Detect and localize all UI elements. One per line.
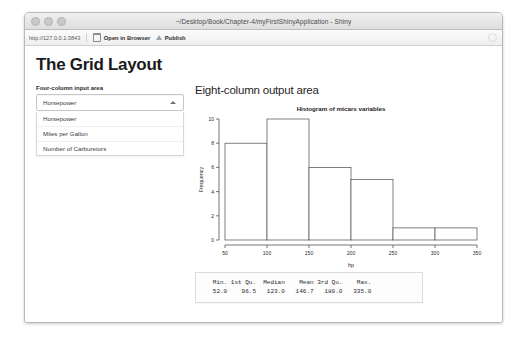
window-title: ~/Desktop/Book/Chapter-4/myFirstShinyApp…: [25, 18, 502, 25]
variable-select-value: Horsepower: [43, 99, 76, 106]
select-option-horsepower[interactable]: Horsepower: [37, 112, 183, 127]
histogram-svg: 024681050100150200250300350hpFrequency: [195, 105, 487, 270]
histogram-plot: Histogram of mtcars variables 0246810501…: [195, 105, 487, 270]
open-in-browser-label: Open in Browser: [104, 35, 150, 41]
svg-text:350: 350: [473, 250, 482, 256]
shiny-app-body: The Grid Layout Four-column input area H…: [25, 46, 502, 323]
chevron-up-icon: [170, 101, 176, 104]
svg-text:150: 150: [305, 250, 314, 256]
svg-text:6: 6: [211, 164, 214, 170]
svg-text:50: 50: [222, 250, 228, 256]
refresh-icon[interactable]: [488, 33, 497, 42]
svg-text:Frequency: Frequency: [198, 166, 204, 192]
svg-text:10: 10: [208, 116, 214, 122]
select-option-number-of-carburetors[interactable]: Number of Carburetors: [37, 142, 183, 156]
svg-text:300: 300: [431, 250, 440, 256]
output-area-heading: Eight-column output area: [195, 84, 487, 96]
summary-header-row: Min. 1st Qu. Median Mean 3rd Qu. Max.: [202, 278, 416, 287]
svg-text:4: 4: [211, 189, 214, 195]
svg-text:250: 250: [389, 250, 398, 256]
publish-label: Publish: [165, 35, 186, 41]
summary-panel: Min. 1st Qu. Median Mean 3rd Qu. Max. 52…: [195, 272, 423, 303]
app-window: ~/Desktop/Book/Chapter-4/myFirstShinyApp…: [24, 12, 503, 323]
variable-select[interactable]: Horsepower: [36, 94, 184, 111]
svg-text:2: 2: [211, 213, 214, 219]
browser-window-icon: [93, 33, 101, 42]
svg-text:0: 0: [211, 237, 214, 243]
toolbar-divider: [86, 33, 87, 42]
svg-text:200: 200: [347, 250, 356, 256]
svg-text:hp: hp: [348, 262, 354, 268]
publish-button[interactable]: Publish: [156, 35, 185, 41]
url-label[interactable]: http://127.0.0.1:3843: [29, 35, 80, 41]
window-titlebar[interactable]: ~/Desktop/Book/Chapter-4/myFirstShinyApp…: [25, 13, 502, 30]
publish-icon: [156, 35, 162, 40]
four-column-input-area: Four-column input area Horsepower Horsep…: [36, 85, 184, 156]
eight-column-output-area: Eight-column output area Histogram of mt…: [195, 84, 487, 270]
variable-select-dropdown: Horsepower Miles per Gallon Number of Ca…: [36, 112, 184, 156]
app-toolbar: http://127.0.0.1:3843 Open in Browser Pu…: [25, 30, 502, 46]
open-in-browser-button[interactable]: Open in Browser: [93, 33, 150, 42]
input-area-label: Four-column input area: [36, 85, 184, 91]
summary-value-row: 52.0 96.5 123.0 146.7 180.0 335.0: [202, 287, 416, 296]
screenshot-root: ~/Desktop/Book/Chapter-4/myFirstShinyApp…: [0, 0, 525, 338]
svg-text:8: 8: [211, 140, 214, 146]
page-title: The Grid Layout: [36, 55, 162, 75]
svg-text:100: 100: [263, 250, 272, 256]
select-option-miles-per-gallon[interactable]: Miles per Gallon: [37, 127, 183, 142]
